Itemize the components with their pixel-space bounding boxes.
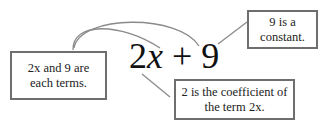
annotation-terms-line2: each terms. (28, 76, 89, 91)
annotation-coefficient-line1: 2 is the coefficient of (182, 85, 288, 100)
annotation-coefficient-line2: the term 2x. (182, 100, 288, 115)
annotation-constant: 9 is a constant. (247, 10, 318, 49)
variable: x (147, 36, 163, 76)
annotation-terms: 2x and 9 are each terms. (10, 51, 107, 100)
coefficient: 2 (129, 36, 147, 76)
annotation-constant-line2: constant. (260, 30, 305, 45)
annotation-terms-line1: 2x and 9 are (28, 61, 89, 76)
connector-coefficient (142, 74, 170, 97)
constant: 9 (201, 36, 219, 76)
annotation-coefficient: 2 is the coefficient of the term 2x. (174, 79, 295, 120)
connector-constant (218, 22, 247, 44)
algebraic-expression: 2x + 9 (129, 36, 219, 76)
operator: + (172, 36, 192, 76)
annotation-constant-line1: 9 is a (260, 15, 305, 30)
